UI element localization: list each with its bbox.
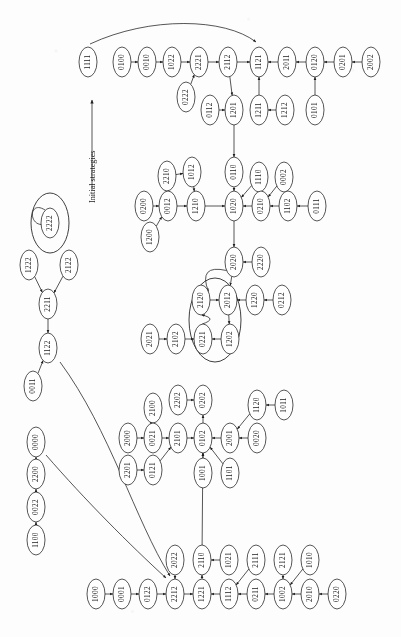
state-node[interactable]: 0022 xyxy=(27,492,45,522)
state-node[interactable]: 0000 xyxy=(27,427,45,457)
state-node[interactable]: 0212 xyxy=(273,285,291,315)
state-node[interactable]: 2200 xyxy=(27,459,45,489)
state-node[interactable]: 2202 xyxy=(169,385,187,415)
state-node[interactable]: 0102 xyxy=(194,423,212,453)
state-node[interactable]: 2111 xyxy=(247,545,265,575)
state-node[interactable]: 2102 xyxy=(167,324,185,354)
state-node[interactable]: 0220 xyxy=(328,579,346,609)
state-node[interactable]: 1001 xyxy=(194,458,212,488)
state-node[interactable]: 1021 xyxy=(220,545,238,575)
state-node[interactable]: 2112 xyxy=(219,47,237,77)
state-node[interactable]: 2212 xyxy=(166,579,184,609)
state-node[interactable]: 0221 xyxy=(194,324,212,354)
state-node[interactable]: 0201 xyxy=(334,47,352,77)
state-node[interactable]: 2210 xyxy=(158,161,176,191)
state-node[interactable]: 0112 xyxy=(201,95,219,125)
state-node[interactable]: 2002 xyxy=(362,47,380,77)
state-node[interactable]: 2122 xyxy=(60,250,78,280)
state-node[interactable]: 0020 xyxy=(248,423,266,453)
state-node[interactable]: 0211 xyxy=(247,579,265,609)
state-node[interactable]: 2012 xyxy=(219,285,237,315)
node-label: 0002 xyxy=(280,169,288,185)
state-node[interactable]: 1211 xyxy=(250,95,268,125)
node-label: 1111 xyxy=(84,54,92,69)
state-node[interactable]: 1122 xyxy=(39,333,57,363)
state-node[interactable]: 2101 xyxy=(169,423,187,453)
state-node[interactable]: 0100 xyxy=(113,47,131,77)
node-label: 2021 xyxy=(146,331,154,347)
state-node[interactable]: 0101 xyxy=(306,95,324,125)
state-node[interactable]: 2021 xyxy=(141,324,159,354)
node-label: 1010 xyxy=(306,552,314,568)
state-node[interactable]: 1020 xyxy=(225,191,243,221)
state-node[interactable]: 0011 xyxy=(24,371,42,401)
state-node[interactable]: 1011 xyxy=(275,390,293,420)
state-node[interactable]: 1222 xyxy=(20,250,38,280)
state-node[interactable]: 1100 xyxy=(27,525,45,555)
state-node[interactable]: 2022 xyxy=(166,545,184,575)
transition-edge xyxy=(230,277,231,286)
state-node[interactable]: 1102 xyxy=(279,191,297,221)
state-node[interactable]: 2100 xyxy=(144,393,162,423)
transition-edge xyxy=(156,217,161,226)
state-node[interactable]: 1210 xyxy=(187,191,205,221)
state-node[interactable]: 2221 xyxy=(190,47,208,77)
state-node[interactable]: 2110 xyxy=(193,545,211,575)
state-node[interactable]: 0202 xyxy=(194,385,212,415)
transition-edge xyxy=(290,569,303,585)
state-node[interactable]: 0002 xyxy=(275,162,293,192)
state-node[interactable]: 1010 xyxy=(301,545,319,575)
state-node[interactable]: 0200 xyxy=(135,191,153,221)
state-node[interactable]: 1212 xyxy=(276,95,294,125)
state-node[interactable]: 2211 xyxy=(39,289,57,319)
transition-edge xyxy=(237,414,249,429)
state-node[interactable]: 2001 xyxy=(221,423,239,453)
node-label: 0220 xyxy=(333,586,341,602)
state-node[interactable]: 1202 xyxy=(221,324,239,354)
state-node[interactable]: 1110 xyxy=(250,162,268,192)
state-node[interactable]: 1022 xyxy=(163,47,181,77)
node-label: 2111 xyxy=(252,552,260,567)
state-node[interactable]: 0012 xyxy=(159,191,177,221)
state-node[interactable]: 1201 xyxy=(225,95,243,125)
state-transition-graph: 1111010000101022222121121121201101200201… xyxy=(0,0,401,637)
state-node[interactable]: 1000 xyxy=(87,579,105,609)
transition-edge xyxy=(236,569,249,585)
state-node[interactable]: 0111 xyxy=(308,191,326,221)
state-node[interactable]: 0110 xyxy=(225,157,243,187)
state-node[interactable]: 0120 xyxy=(306,47,324,77)
state-node[interactable]: 0210 xyxy=(252,191,270,221)
node-label: 2110 xyxy=(198,552,206,568)
state-node[interactable]: 2011 xyxy=(278,47,296,77)
state-node[interactable]: 1120 xyxy=(248,390,266,420)
state-node[interactable]: 1221 xyxy=(193,579,211,609)
state-node[interactable]: 1101 xyxy=(221,458,239,488)
state-node[interactable]: 0222 xyxy=(177,82,195,112)
node-label: 0111 xyxy=(313,198,321,213)
state-node[interactable]: 0010 xyxy=(138,47,156,77)
state-node[interactable]: 2121 xyxy=(274,545,292,575)
state-node[interactable]: 1220 xyxy=(246,285,264,315)
transition-edge xyxy=(35,277,43,293)
state-node[interactable]: 0122 xyxy=(139,579,157,609)
state-node[interactable]: 2020 xyxy=(225,247,243,277)
state-node[interactable]: 2120 xyxy=(192,285,210,315)
node-label: 0202 xyxy=(199,392,207,408)
state-node[interactable]: 0121 xyxy=(144,455,162,485)
state-node[interactable]: 0021 xyxy=(144,423,162,453)
state-node[interactable]: 1121 xyxy=(250,47,268,77)
transition-edge xyxy=(210,447,223,464)
state-node[interactable]: 1012 xyxy=(183,157,201,187)
state-node[interactable]: 2201 xyxy=(119,455,137,485)
state-node[interactable]: 2010 xyxy=(301,579,319,609)
state-node[interactable]: 2220 xyxy=(252,247,270,277)
state-node[interactable]: 1111 xyxy=(79,47,97,77)
node-label: 0222 xyxy=(182,89,190,105)
state-node[interactable]: 1200 xyxy=(141,222,159,252)
state-node[interactable]: 1112 xyxy=(220,579,238,609)
state-node[interactable]: 1002 xyxy=(274,579,292,609)
state-node[interactable]: 2000 xyxy=(119,423,137,453)
node-label: 1000 xyxy=(92,586,100,602)
state-node[interactable]: 0001 xyxy=(113,579,131,609)
state-node[interactable]: 2222 xyxy=(41,208,59,238)
